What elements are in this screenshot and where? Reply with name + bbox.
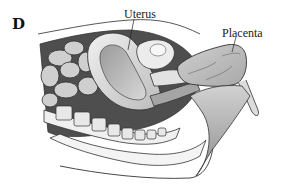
- thigh: [190, 85, 250, 176]
- placenta: [178, 44, 247, 86]
- uterus-label: Uterus: [124, 7, 156, 22]
- anatomy-figure: D Uterus Placenta: [0, 0, 284, 184]
- placenta-label: Placenta: [222, 26, 263, 41]
- panel-letter: D: [12, 15, 25, 33]
